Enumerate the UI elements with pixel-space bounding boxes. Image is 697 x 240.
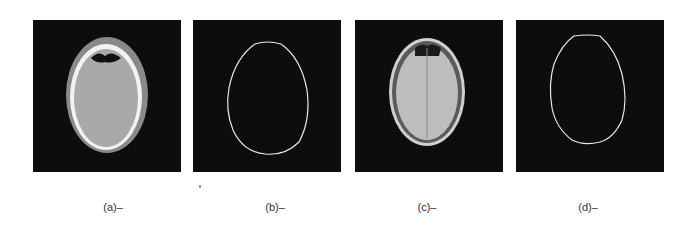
caption-a: (a)– bbox=[73, 201, 153, 213]
caption-b: (b)– bbox=[235, 201, 315, 213]
scan-artifact-speck bbox=[199, 185, 201, 188]
panel-b-contour bbox=[193, 20, 341, 172]
caption-d: (d)– bbox=[548, 201, 628, 213]
skull-contour-graphic bbox=[516, 20, 664, 172]
panel-d-contour bbox=[516, 20, 664, 172]
panel-a-ct-image bbox=[33, 20, 181, 172]
panel-c-mr-image bbox=[355, 20, 503, 172]
skull-contour-graphic bbox=[193, 20, 341, 172]
caption-c: (c)– bbox=[387, 201, 467, 213]
mr-head-graphic bbox=[355, 20, 503, 172]
ct-head-graphic bbox=[33, 20, 181, 172]
